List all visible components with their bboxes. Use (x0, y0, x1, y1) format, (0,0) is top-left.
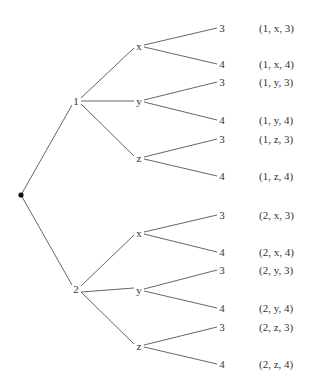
leaf-node-label: 4 (218, 302, 226, 314)
branch-edge (81, 48, 134, 98)
branch-edge (144, 291, 217, 308)
level1-node-label: 2 (72, 283, 80, 295)
outcome-tuple: (1, x, 4) (259, 58, 294, 70)
branch-edge (144, 327, 217, 345)
outcome-tuple: (1, y, 4) (259, 114, 293, 126)
level2-node-label: z (136, 152, 143, 164)
level1-node-label: 1 (72, 95, 80, 107)
branch-edge (81, 288, 134, 292)
outcome-tuple: (2, x, 4) (259, 246, 294, 258)
leaf-node-label: 3 (218, 321, 226, 333)
leaf-node-label: 4 (218, 246, 226, 258)
branch-edge (144, 102, 217, 120)
level2-node-label: z (136, 340, 143, 352)
leaf-node-label: 4 (218, 114, 226, 126)
leaf-node-label: 3 (218, 76, 226, 88)
branch-edge (21, 195, 72, 285)
outcome-tuple: (2, z, 3) (259, 321, 293, 333)
branch-edge (144, 139, 217, 157)
leaf-node-label: 4 (218, 170, 226, 182)
branch-edge (81, 235, 134, 286)
leaf-node-label: 3 (218, 22, 226, 34)
outcome-tuple: (1, z, 4) (259, 170, 293, 182)
leaf-node-label: 3 (218, 133, 226, 145)
leaf-node-label: 4 (218, 358, 226, 370)
branch-edge (144, 215, 217, 232)
level2-node-label: x (135, 227, 143, 239)
branch-edge (81, 292, 134, 344)
level2-node-label: y (135, 95, 143, 107)
level2-node-label: x (135, 40, 143, 52)
branch-edge (21, 105, 72, 195)
branch-edge (81, 104, 134, 156)
leaf-node-label: 3 (218, 264, 226, 276)
leaf-node-label: 3 (218, 209, 226, 221)
leaf-node-label: 4 (218, 58, 226, 70)
branch-edge (144, 82, 217, 100)
branch-edge (144, 47, 217, 64)
outcome-tuple: (2, y, 3) (259, 264, 293, 276)
outcome-tuple: (2, z, 4) (259, 358, 293, 370)
branch-edge (144, 347, 217, 364)
outcome-tuple: (2, y, 4) (259, 302, 293, 314)
outcome-tuple: (1, y, 3) (259, 76, 293, 88)
branch-edge (144, 270, 217, 289)
root-node-dot (18, 192, 23, 197)
outcome-tuple: (2, x, 3) (259, 209, 294, 221)
level2-node-label: y (135, 284, 143, 296)
branch-edge (144, 159, 217, 176)
outcome-tuple: (1, z, 3) (259, 133, 293, 145)
outcome-tuple: (1, x, 3) (259, 22, 294, 34)
branch-edge (144, 28, 217, 45)
branch-edge (144, 234, 217, 252)
